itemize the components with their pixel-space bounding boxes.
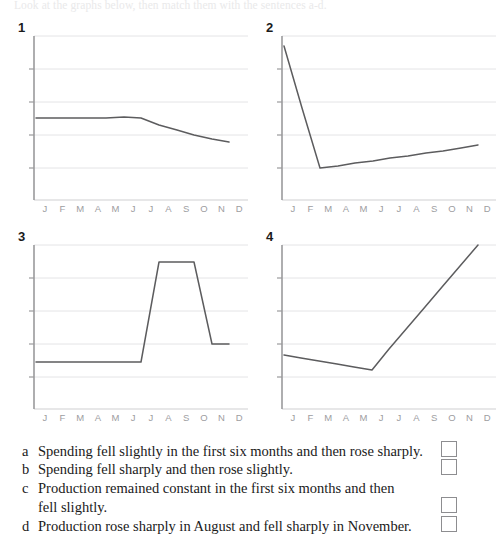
month-label: M	[71, 202, 89, 218]
checkbox-option-c[interactable]	[441, 497, 457, 513]
month-label: N	[213, 411, 231, 427]
month-label: D	[478, 411, 496, 427]
month-label: A	[408, 411, 426, 427]
option-c-line1: Production remained constant in the firs…	[38, 480, 394, 496]
option-a-line1: Spending fell slightly in the first six …	[38, 443, 423, 459]
chart-2-gridlines	[282, 36, 496, 200]
option-d-line1: Production rose sharply in August and fe…	[38, 518, 412, 534]
month-label: M	[355, 202, 373, 218]
option-text-d: Production rose sharply in August and fe…	[38, 517, 474, 536]
month-label: D	[478, 202, 496, 218]
chart-2-series	[284, 46, 478, 168]
month-label: M	[355, 411, 373, 427]
month-label: J	[390, 202, 408, 218]
month-label: J	[142, 411, 160, 427]
checkbox-option-d[interactable]	[441, 516, 457, 532]
chart-3-series	[36, 262, 229, 362]
chart-2: 2 J F M A M J	[248, 18, 496, 227]
charts-grid: 1 J F M A M J	[0, 18, 496, 436]
month-label: A	[337, 411, 355, 427]
month-label: O	[195, 202, 213, 218]
chart-3: 3 J F M A M J	[0, 227, 248, 436]
month-label: J	[390, 411, 408, 427]
month-label: M	[319, 202, 337, 218]
page-top-faint-text: Look at the graphs below, then match the…	[0, 0, 496, 16]
month-label: J	[124, 411, 142, 427]
option-text-a: Spending fell slightly in the first six …	[38, 442, 474, 461]
chart-4-series	[284, 245, 478, 370]
chart-1-plot	[0, 18, 248, 227]
month-label: J	[372, 202, 390, 218]
month-label: O	[443, 202, 461, 218]
month-label: M	[107, 202, 125, 218]
month-label: F	[54, 411, 72, 427]
option-letter-d: d	[22, 517, 38, 536]
chart-4-gridlines	[282, 245, 496, 409]
month-label: O	[443, 411, 461, 427]
month-label: A	[160, 202, 178, 218]
checkbox-option-b[interactable]	[441, 459, 457, 475]
chart-4-plot	[248, 227, 496, 436]
checkbox-option-a[interactable]	[441, 441, 457, 457]
chart-3-plot	[0, 227, 248, 436]
chart-3-axis	[29, 245, 34, 409]
month-label: J	[142, 202, 160, 218]
chart-1-month-labels: J F M A M J J A S O N D	[36, 202, 248, 218]
month-label: J	[36, 202, 54, 218]
month-label: F	[54, 202, 72, 218]
month-label: S	[425, 411, 443, 427]
month-label: A	[337, 202, 355, 218]
month-label: J	[372, 411, 390, 427]
chart-1-series	[36, 117, 229, 142]
option-row-b: b Spending fell sharply and then rose sl…	[22, 460, 474, 479]
month-label: O	[195, 411, 213, 427]
option-row-a: a Spending fell slightly in the first si…	[22, 442, 474, 461]
month-label: A	[89, 411, 107, 427]
month-label: M	[71, 411, 89, 427]
month-label: J	[124, 202, 142, 218]
month-label: S	[425, 202, 443, 218]
chart-2-axis	[277, 36, 282, 200]
option-b-line1: Spending fell sharply and then rose slig…	[38, 461, 293, 477]
month-label: F	[302, 411, 320, 427]
month-label: N	[461, 202, 479, 218]
chart-1: 1 J F M A M J	[0, 18, 248, 227]
month-label: S	[177, 202, 195, 218]
month-label: A	[408, 202, 426, 218]
month-label: D	[230, 202, 248, 218]
month-label: A	[160, 411, 178, 427]
month-label: J	[284, 202, 302, 218]
month-label: F	[302, 202, 320, 218]
month-label: N	[461, 411, 479, 427]
month-label: M	[107, 411, 125, 427]
chart-4-month-labels: J F M A M J J A S O N D	[284, 411, 496, 427]
month-label: J	[284, 411, 302, 427]
month-label: M	[319, 411, 337, 427]
chart-2-plot	[248, 18, 496, 227]
option-letter-a: a	[22, 442, 38, 461]
month-label: J	[36, 411, 54, 427]
month-label: D	[230, 411, 248, 427]
chart-2-month-labels: J F M A M J J A S O N D	[284, 202, 496, 218]
chart-3-month-labels: J F M A M J J A S O N D	[36, 411, 248, 427]
chart-3-gridlines	[34, 245, 248, 409]
chart-4: 4 J F M A M J	[248, 227, 496, 436]
option-text-b: Spending fell sharply and then rose slig…	[38, 460, 474, 479]
option-text-c: Production remained constant in the firs…	[38, 479, 474, 517]
answer-options-list: a Spending fell slightly in the first si…	[0, 437, 496, 544]
chart-1-axis	[29, 36, 34, 200]
month-label: A	[89, 202, 107, 218]
option-letter-c: c	[22, 479, 38, 498]
month-label: S	[177, 411, 195, 427]
option-row-d: d Production rose sharply in August and …	[22, 517, 474, 536]
option-row-c: c Production remained constant in the fi…	[22, 479, 474, 517]
chart-4-axis	[277, 245, 282, 409]
month-label: N	[213, 202, 231, 218]
option-c-line2: fell slightly.	[38, 498, 474, 517]
option-letter-b: b	[22, 460, 38, 479]
